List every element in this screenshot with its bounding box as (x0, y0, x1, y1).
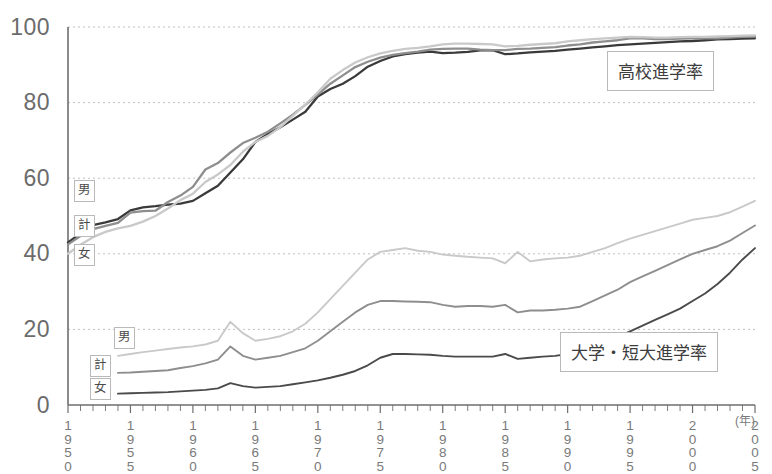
y-tick-label-80: 80 (0, 89, 50, 116)
legend-uni-female: 女 (90, 378, 111, 400)
x-axis-ticks (68, 405, 755, 413)
y-tick-label-0: 0 (0, 392, 50, 419)
x-tick-label-1955: 1955 (121, 419, 139, 473)
legend-hs-male: 男 (74, 180, 95, 202)
y-tick-label-100: 100 (0, 14, 50, 41)
annotation-university: 大学・短大進学率 (560, 332, 718, 372)
x-tick-label-1995: 1995 (621, 419, 639, 473)
y-tick-label-40: 40 (0, 240, 50, 267)
x-axis-unit-label: (年) (735, 411, 755, 428)
annotation-high-school: 高校進学率 (607, 51, 714, 91)
x-tick-label-1980: 1980 (434, 419, 452, 473)
y-tick-label-20: 20 (0, 316, 50, 343)
x-tick-label-2000: 2000 (684, 419, 702, 473)
x-tick-label-1960: 1960 (184, 419, 202, 473)
x-tick-label-1965: 1965 (246, 419, 264, 473)
x-tick-label-1985: 1985 (496, 419, 514, 473)
legend-hs-total: 計 (74, 215, 95, 237)
legend-hs-female: 女 (74, 244, 95, 266)
legend-uni-total: 計 (90, 355, 111, 377)
x-tick-label-1975: 1975 (371, 419, 389, 473)
x-tick-label-1950: 1950 (59, 419, 77, 473)
x-tick-label-1970: 1970 (309, 419, 327, 473)
legend-uni-male: 男 (114, 327, 135, 349)
x-tick-label-1990: 1990 (559, 419, 577, 473)
y-tick-label-60: 60 (0, 165, 50, 192)
